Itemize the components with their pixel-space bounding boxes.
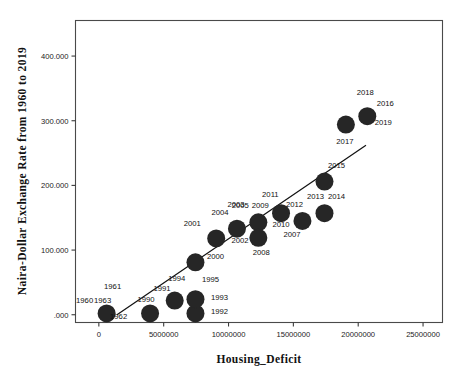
data-point-label: 2002 <box>231 236 248 245</box>
data-point-label: 2008 <box>253 248 270 257</box>
data-marker <box>293 212 311 230</box>
x-tick-label: 10000000 <box>212 330 246 339</box>
data-point-label: 2015 <box>328 161 345 170</box>
chart-canvas: .000100.000200.000300.000400.000 0500000… <box>0 0 466 372</box>
data-point-label: 1963 <box>94 296 111 305</box>
y-tick-label: 200.000 <box>41 181 68 190</box>
x-tick-label: 5000000 <box>149 330 179 339</box>
data-marker <box>141 304 159 322</box>
y-axis-title: Naira-Dollar Exchange Rate from 1960 to … <box>16 47 29 295</box>
data-marker <box>315 173 333 191</box>
data-point-label: 2012 <box>286 200 303 209</box>
data-point-label: 2009 <box>252 201 269 210</box>
y-tick-label: 300.000 <box>41 117 68 126</box>
data-marker <box>358 107 376 125</box>
data-point-label: 1995 <box>202 275 219 284</box>
scatter-plot-figure: .000100.000200.000300.000400.000 0500000… <box>0 0 466 372</box>
data-point-label: 2018 <box>357 88 374 97</box>
chart-background <box>0 0 466 372</box>
data-point-label: 1960 <box>76 296 93 305</box>
y-tick-label: .000 <box>54 311 69 320</box>
data-point-label: 2005 <box>232 201 249 210</box>
data-point-label: 2019 <box>375 118 392 127</box>
data-point-label: 2014 <box>328 192 346 201</box>
data-point-label: 2010 <box>272 220 289 229</box>
data-point-label: 2011 <box>262 190 279 199</box>
y-tick-label: 100.000 <box>41 246 68 255</box>
data-point-label: 1993 <box>211 293 228 302</box>
data-point-label: 1990 <box>138 295 155 304</box>
data-point-label: 1991 <box>154 284 171 293</box>
data-point-label: 1994 <box>168 274 186 283</box>
data-marker <box>249 213 267 231</box>
data-point-label: 2017 <box>336 137 353 146</box>
data-point-label: 2000 <box>207 252 224 261</box>
data-point-label: 2007 <box>283 230 300 239</box>
data-point-label: 2016 <box>377 99 394 108</box>
data-point-label: 1961 <box>104 282 121 291</box>
x-tick-label: 20000000 <box>341 330 375 339</box>
data-marker <box>166 292 184 310</box>
x-axis-title: Housing_Deficit <box>216 353 301 366</box>
data-marker <box>249 229 267 247</box>
x-tick-label: 25000000 <box>406 330 440 339</box>
data-point-label: 1992 <box>211 307 228 316</box>
data-point-label: 2013 <box>307 192 324 201</box>
y-tick-label: 400.000 <box>41 52 68 61</box>
x-tick-label: 0 <box>97 330 101 339</box>
data-point-label: 1962 <box>110 312 127 321</box>
data-marker <box>315 204 333 222</box>
data-marker <box>186 290 204 308</box>
data-marker <box>186 253 204 271</box>
data-marker <box>337 116 355 134</box>
data-point-label: 2001 <box>184 219 201 228</box>
data-marker <box>207 229 225 247</box>
data-point-label: 2004 <box>211 208 229 217</box>
x-tick-label: 15000000 <box>276 330 310 339</box>
